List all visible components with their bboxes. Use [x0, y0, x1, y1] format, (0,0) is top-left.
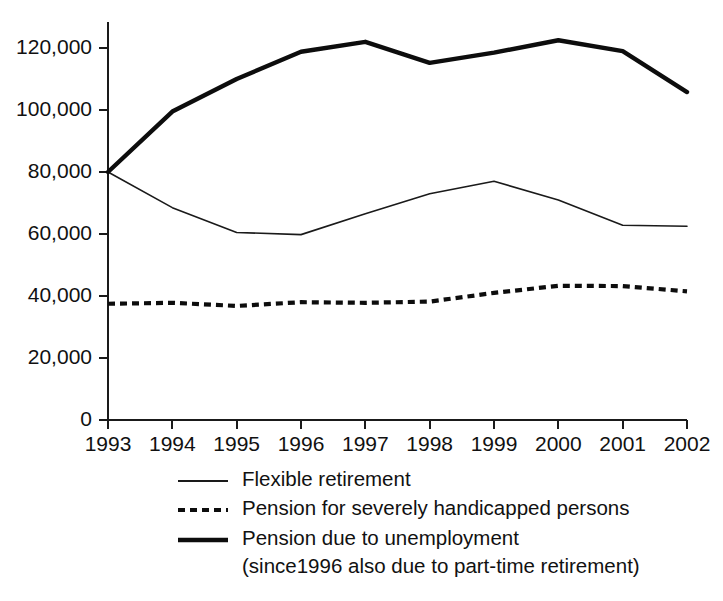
- x-tick-label: 1996: [278, 432, 325, 455]
- y-axis-ticks: [99, 48, 108, 420]
- legend-entry-flexible-retirement[interactable]: Flexible retirement: [178, 467, 411, 490]
- x-tick-label: 1993: [85, 432, 132, 455]
- y-tick-label: 100,000: [16, 97, 92, 120]
- series-line-severely-handicapped: [108, 286, 687, 306]
- series-line-flexible-retirement: [108, 172, 687, 235]
- series-line-unemployment: [108, 40, 687, 172]
- x-tick-label: 2001: [599, 432, 646, 455]
- y-tick-label: 0: [80, 407, 92, 430]
- legend-label: Pension for severely handicapped persons: [242, 496, 629, 519]
- legend-label: Pension due to unemployment: [242, 526, 519, 549]
- legend-entry-severely-handicapped[interactable]: Pension for severely handicapped persons: [178, 496, 629, 519]
- x-tick-label: 2000: [535, 432, 582, 455]
- legend-label: Flexible retirement: [242, 467, 411, 490]
- x-axis-labels: 1993199419951996199719981999200020012002: [85, 432, 711, 455]
- legend-entry-unemployment[interactable]: Pension due to unemployment (since1996 a…: [178, 526, 640, 577]
- x-tick-label: 1995: [213, 432, 260, 455]
- x-tick-label: 1997: [342, 432, 389, 455]
- x-tick-label: 2002: [664, 432, 711, 455]
- y-tick-label: 60,000: [28, 221, 92, 244]
- y-tick-label: 80,000: [28, 159, 92, 182]
- chart-page: 120,000 100,000 80,000 60,000 40,000 20,…: [0, 0, 723, 601]
- chart-legend: Flexible retirement Pension for severely…: [178, 467, 640, 577]
- y-tick-label: 20,000: [28, 345, 92, 368]
- line-chart: 120,000 100,000 80,000 60,000 40,000 20,…: [0, 0, 723, 601]
- x-tick-label: 1999: [471, 432, 518, 455]
- y-axis-labels: 120,000 100,000 80,000 60,000 40,000 20,…: [16, 35, 92, 430]
- y-tick-label: 120,000: [16, 35, 92, 58]
- y-tick-label: 40,000: [28, 283, 92, 306]
- x-axis-ticks: [108, 420, 687, 429]
- x-tick-label: 1998: [406, 432, 453, 455]
- legend-label-secondary: (since1996 also due to part-time retirem…: [242, 554, 640, 577]
- x-tick-label: 1994: [149, 432, 196, 455]
